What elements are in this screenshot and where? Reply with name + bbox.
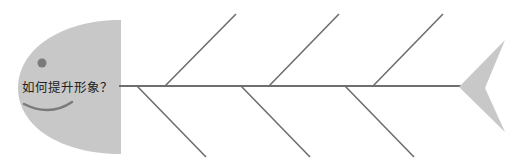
lower-bone-3	[345, 86, 414, 157]
upper-bone-2	[269, 14, 339, 86]
upper-bone-1	[165, 14, 236, 86]
upper-bone-3	[373, 14, 443, 86]
fish-eye	[38, 59, 47, 68]
lower-bone-2	[241, 86, 310, 157]
fish-tail	[459, 40, 505, 132]
lower-bone-1	[137, 86, 206, 157]
head-label: 如何提升形象？	[22, 77, 113, 96]
